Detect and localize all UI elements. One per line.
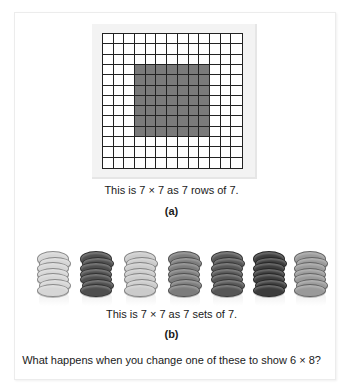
grid-cell [124, 116, 135, 126]
grid-cell [114, 137, 125, 147]
grid-cell [114, 65, 125, 75]
grid-cell [114, 158, 125, 168]
grid-cell [210, 158, 221, 168]
grid-cell [178, 55, 189, 65]
grid-cell [189, 34, 200, 44]
grid-cell [210, 147, 221, 157]
coin-stack [80, 248, 114, 306]
grid-cell [221, 158, 232, 168]
grid-cell [135, 106, 146, 116]
grid-cell [114, 116, 125, 126]
grid-cell [167, 65, 178, 75]
grid-cell [124, 137, 135, 147]
grid-cell [199, 55, 210, 65]
grid-cell [178, 75, 189, 85]
grid-cell [178, 96, 189, 106]
grid-cell [167, 44, 178, 54]
grid-cell [146, 75, 157, 85]
grid-cell [199, 34, 210, 44]
grid-cell [178, 127, 189, 137]
grid-cell [178, 44, 189, 54]
coin-stack [37, 248, 71, 306]
grid-cell [189, 44, 200, 54]
grid-cell [124, 65, 135, 75]
grid-cell [231, 116, 242, 126]
grid-cell [167, 116, 178, 126]
grid-cell [189, 96, 200, 106]
coin-stack [124, 248, 158, 306]
grid-cell [103, 147, 114, 157]
grid-cell [114, 96, 125, 106]
coin-stack [294, 248, 328, 306]
grid-cell [231, 106, 242, 116]
grid-cell [167, 137, 178, 147]
grid-cell [103, 55, 114, 65]
grid-cell [199, 116, 210, 126]
grid-cell [178, 147, 189, 157]
grid-cell [178, 86, 189, 96]
grid-cell [146, 116, 157, 126]
grid-cell [156, 106, 167, 116]
grid-cell [199, 158, 210, 168]
coin-stack [211, 248, 245, 306]
grid-cell [124, 55, 135, 65]
grid-cell [135, 86, 146, 96]
grid-cell [210, 75, 221, 85]
grid-cell [210, 116, 221, 126]
grid-cell [178, 116, 189, 126]
grid-cell [199, 65, 210, 75]
grid-cell [114, 127, 125, 137]
grid-cell [167, 96, 178, 106]
grid-cell [135, 75, 146, 85]
grid-cell [135, 44, 146, 54]
grid-cell [210, 86, 221, 96]
grid-cell [156, 137, 167, 147]
grid-cell [189, 55, 200, 65]
grid-cell [231, 65, 242, 75]
grid-cell [103, 86, 114, 96]
coin-icon [124, 284, 156, 297]
grid-cell [114, 55, 125, 65]
grid-cell [146, 147, 157, 157]
grid-cell [114, 34, 125, 44]
grid-cell [221, 34, 232, 44]
grid-cell [114, 44, 125, 54]
grid-cell [146, 137, 157, 147]
coin-icon [211, 284, 243, 297]
grid-cell [135, 96, 146, 106]
coin-icon [37, 284, 69, 297]
grid-cell [103, 127, 114, 137]
grid-cell [221, 147, 232, 157]
grid-cell [189, 86, 200, 96]
grid-cell [231, 147, 242, 157]
grid-cell [189, 127, 200, 137]
grid-cell [124, 158, 135, 168]
grid-cell [135, 158, 146, 168]
grid-cell [146, 127, 157, 137]
grid-cell [221, 55, 232, 65]
question-text: What happens when you change one of thes… [0, 354, 343, 366]
grid-cell [167, 55, 178, 65]
grid-cell [124, 34, 135, 44]
grid-cell [231, 75, 242, 85]
grid-cell [146, 55, 157, 65]
grid-cell [178, 65, 189, 75]
grid-cell [135, 147, 146, 157]
grid-cell [199, 147, 210, 157]
grid-cell [178, 106, 189, 116]
grid-cell [156, 127, 167, 137]
grid-cell [114, 106, 125, 116]
grid-cell [103, 158, 114, 168]
grid-cell [199, 127, 210, 137]
grid-cell [210, 96, 221, 106]
grid-cell [146, 34, 157, 44]
coin-stack [253, 248, 287, 306]
grid-cell [210, 65, 221, 75]
grid-cell [167, 34, 178, 44]
grid-cell [124, 86, 135, 96]
grid-cell [221, 106, 232, 116]
grid-cell [103, 75, 114, 85]
coin-stack [168, 248, 202, 306]
grid-cell [103, 137, 114, 147]
grid-cell [103, 65, 114, 75]
